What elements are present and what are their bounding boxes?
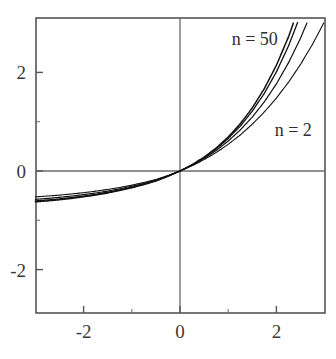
x-tick-label: 0 xyxy=(175,321,185,342)
y-tick-label: 2 xyxy=(17,62,27,83)
y-tick-label: -2 xyxy=(10,260,26,281)
x-tick-label: -2 xyxy=(76,321,92,342)
annotation-n50: n = 50 xyxy=(232,29,278,49)
curve-n15 xyxy=(35,23,297,201)
x-tick-label: 2 xyxy=(272,321,282,342)
curve-n50 xyxy=(35,23,293,202)
curve-n5 xyxy=(35,23,306,199)
tick-marks xyxy=(36,72,276,313)
chart-figure: -20220-2 n = 50n = 2 xyxy=(0,0,336,359)
chart-plot-area: -20220-2 n = 50n = 2 xyxy=(0,0,336,359)
y-tick-label: 0 xyxy=(17,161,27,182)
tick-labels: -20220-2 xyxy=(10,62,281,342)
annotation-n2: n = 2 xyxy=(275,120,312,140)
series-annotations: n = 50n = 2 xyxy=(232,29,312,139)
